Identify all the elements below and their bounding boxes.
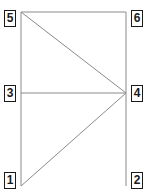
node-label-6: 6 <box>131 10 143 27</box>
diagram-edge <box>21 12 126 93</box>
node-label-4: 4 <box>131 85 143 102</box>
node-label-5: 5 <box>4 10 16 27</box>
node-diagram: 123456 <box>0 0 153 193</box>
node-label-2: 2 <box>131 172 143 189</box>
edge-layer <box>21 12 126 186</box>
node-label-1: 1 <box>4 172 16 189</box>
diagram-edge <box>21 93 126 186</box>
node-label-3: 3 <box>4 85 16 102</box>
